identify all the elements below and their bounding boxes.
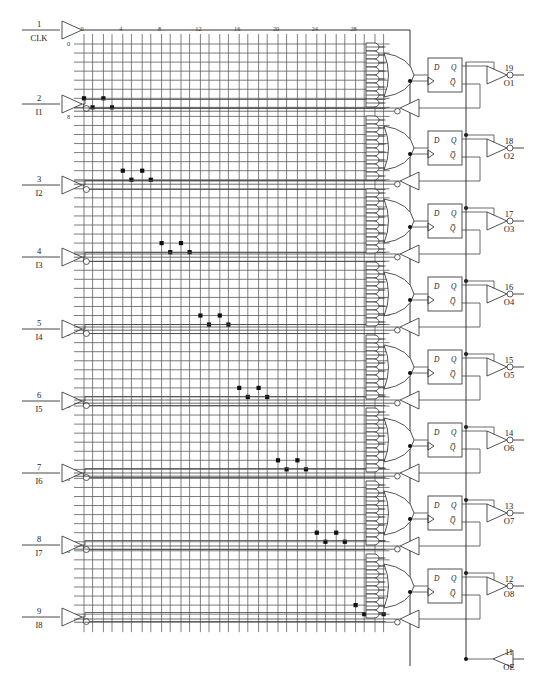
pin-label: CLK [31,33,49,43]
pin-label: OE [503,662,514,672]
ff-q-label: Q [451,355,457,364]
pin-label: I3 [35,260,42,270]
buffer-triangle [62,608,82,626]
feedback-bubble [395,254,401,260]
ff-q-label: Q [451,63,457,72]
pin-label: O3 [504,224,514,234]
array-axis-labels: 04812162024280816243240485663 [64,25,357,617]
input-pin-i1[interactable]: 2I1 [22,93,386,117]
ff-d-label: D [433,428,440,437]
ff-d-label: D [433,574,440,583]
diagram-canvas: 04812162024280816243240485663 1CLK2I13I2… [0,0,546,698]
pin-label: O4 [504,297,515,307]
pin-number: 3 [37,174,41,184]
pin-number: 16 [505,282,514,292]
pin-number: 9 [37,606,41,616]
ff-qbar-label: Q̅ [450,516,456,525]
pin-number: 11 [505,647,513,657]
pin-label: I8 [35,620,42,630]
pin-label: O6 [504,443,514,453]
clk-junction [408,517,412,521]
svg-text:0: 0 [67,40,70,47]
buffer-triangle [62,320,82,338]
pin-label: O7 [504,516,514,526]
pin-number: 18 [505,136,514,146]
ff-q-label: Q [451,428,457,437]
clk-junction [408,298,412,302]
pin-number: 5 [37,318,41,328]
pin-label: I1 [35,107,42,117]
ff-qbar-label: Q̅ [450,151,456,160]
feedback-bubble [395,400,401,406]
buffer-triangle [62,176,82,194]
pin-label: O2 [504,151,514,161]
buffer-triangle [62,21,82,39]
pin-label: I4 [35,332,43,342]
pin-number: 2 [37,93,41,103]
feedback-bubble [395,473,401,479]
ff-d-label: D [433,282,440,291]
inverter-bubble [83,475,89,481]
clk-junction [408,590,412,594]
feedback-bubble [395,327,401,333]
svg-text:12: 12 [195,25,201,32]
macrocell-8: DQQ̅ [74,554,487,628]
pin-label: I6 [35,476,42,486]
clk-junction [408,152,412,156]
ff-d-label: D [433,63,440,72]
ff-qbar-label: Q̅ [450,78,456,87]
feedback-bubble [395,619,401,625]
ff-q-label: Q [451,501,457,510]
pin-number: 15 [505,355,514,365]
oe-rail-junction [464,657,468,661]
svg-text:20: 20 [273,25,279,32]
ff-d-label: D [433,209,440,218]
ff-qbar-label: Q̅ [450,297,456,306]
input-pin-i5[interactable]: 6I5 [22,390,386,414]
inverter-bubble [83,331,89,337]
pin-number: 19 [505,63,514,73]
pin-number: 17 [505,209,514,219]
inverter-bubble [83,619,89,625]
input-pin-i4[interactable]: 5I4 [22,318,386,342]
ff-q-label: Q [451,282,457,291]
ff-d-label: D [433,136,440,145]
inverter-bubble [83,259,89,265]
output-pin-buffers: 19O118O217O316O415O514O613O712O811OE [464,62,524,672]
inverter-bubble [83,187,89,193]
feedback-bubble [395,181,401,187]
pin-label: I7 [35,548,42,558]
pin-number: 1 [37,19,41,29]
product-term-array [74,34,390,632]
pin-number: 6 [37,390,41,400]
clk-junction [408,225,412,229]
pin-number: 12 [505,574,514,584]
pin-label: I2 [35,188,42,198]
input-pin-i2[interactable]: 3I2 [22,174,386,198]
svg-text:24: 24 [312,25,318,32]
pin-number: 8 [37,534,41,544]
input-pin-i7[interactable]: 8I7 [22,534,386,558]
macrocell-5: DQQ̅ [74,335,487,409]
pin-number: 14 [505,428,514,438]
pin-number: 13 [505,501,514,511]
buffer-triangle [62,536,82,554]
pin-label: O8 [504,589,514,599]
macrocell-7: DQQ̅ [74,481,487,555]
ff-d-label: D [433,355,440,364]
pin-number: 7 [37,462,41,472]
ff-q-label: Q [451,209,457,218]
ff-qbar-label: Q̅ [450,370,456,379]
ff-d-label: D [433,501,440,510]
input-pin-i6[interactable]: 7I6 [22,462,386,486]
pin-label: O1 [504,78,514,88]
svg-text:8: 8 [158,25,161,32]
svg-text:4: 4 [119,25,122,32]
pin-label: O5 [504,370,514,380]
svg-text:16: 16 [234,25,240,32]
clk-junction [408,444,412,448]
pld-fuse-map-svg: 04812162024280816243240485663 1CLK2I13I2… [0,0,546,698]
feedback-bubble [395,108,401,114]
input-pin-i8[interactable]: 9I8 [22,606,386,630]
clk-junction [408,79,412,83]
